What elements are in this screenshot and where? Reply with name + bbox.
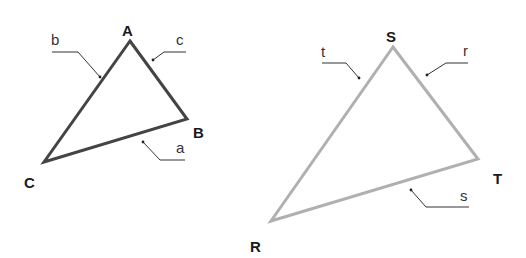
side-label-b: b [51, 31, 59, 48]
triangle-rst-outline [271, 47, 478, 221]
side-label-a: a [176, 139, 185, 156]
leader-dot-s [410, 189, 413, 192]
triangle-abc: A B C b c a [24, 22, 204, 191]
side-leader-lines [52, 52, 186, 160]
leader-dot-t [358, 77, 361, 80]
leader-dot-b [99, 76, 102, 79]
vertex-label-r: R [250, 238, 261, 255]
leader-line-b [52, 52, 100, 77]
side-label-r: r [463, 42, 468, 59]
leader-dot-r [426, 74, 429, 77]
leader-dot-a [142, 141, 145, 144]
vertex-label-c: C [24, 174, 35, 191]
vertex-label-b: B [193, 124, 204, 141]
triangle-rst: S T R t r s [250, 28, 502, 255]
vertex-label-a: A [122, 22, 133, 39]
leader-line-r [427, 63, 468, 75]
leader-dot-c [152, 59, 155, 62]
leader-line-t [322, 63, 359, 78]
leader-line-c [153, 52, 186, 60]
side-label-c: c [176, 31, 184, 48]
vertex-label-t: T [493, 170, 502, 187]
side-leader-lines [322, 63, 469, 207]
side-label-t: t [321, 43, 326, 60]
triangle-abc-outline [44, 41, 187, 162]
vertex-label-s: S [386, 28, 396, 45]
triangles-diagram: A B C b c a S T R t r s [0, 0, 526, 258]
side-label-s: s [460, 187, 468, 204]
